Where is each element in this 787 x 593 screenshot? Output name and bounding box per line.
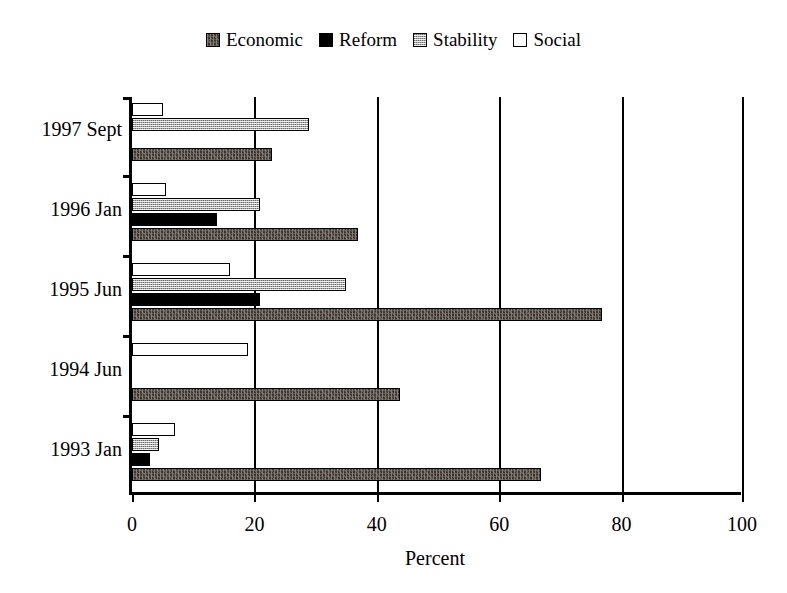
- x-axis-tick-60: [499, 492, 501, 502]
- x-tick-label-60: 60: [489, 514, 509, 534]
- x-axis-tick-0: [132, 492, 134, 502]
- y-axis-tick-4: [123, 415, 132, 418]
- bar-1996-jan-reform[interactable]: [132, 213, 217, 226]
- x-tick-label-80: 80: [612, 514, 632, 534]
- x-tick-label-40: 40: [367, 514, 387, 534]
- legend-swatch-social: [513, 33, 527, 47]
- bar-1993-jan-reform[interactable]: [132, 453, 150, 466]
- x-tick-label-100: 100: [727, 514, 757, 534]
- bar-1995-jun-stability[interactable]: [132, 278, 346, 291]
- y-axis-labels: 1997 Sept 1996 Jan 1995 Jun 1994 Jun 199…: [0, 97, 122, 495]
- gridline-100: [742, 97, 744, 495]
- y-tick-label-1997-sept: 1997 Sept: [2, 119, 122, 139]
- legend-label-reform: Reform: [339, 30, 397, 49]
- y-tick-label-1994-jun: 1994 Jun: [2, 359, 122, 379]
- y-tick-label-1995-jun: 1995 Jun: [2, 279, 122, 299]
- bar-1994-jun-social[interactable]: [132, 343, 248, 356]
- bar-chart: Economic Reform Stability Social 1997 Se…: [0, 0, 787, 593]
- y-axis-tick-top: [123, 97, 132, 100]
- y-axis-tick-1: [123, 175, 132, 178]
- legend-item-social: Social: [513, 30, 581, 49]
- x-tick-label-0: 0: [127, 514, 137, 534]
- bar-1997-sept-stability[interactable]: [132, 118, 309, 131]
- plot-area: 0 20 40 60 80 100: [129, 97, 741, 495]
- bar-1996-jan-stability[interactable]: [132, 198, 260, 211]
- x-axis-tick-80: [622, 492, 624, 502]
- bar-1993-jan-economic[interactable]: [132, 468, 541, 481]
- legend-item-stability: Stability: [413, 30, 497, 49]
- gridline-80: [622, 97, 624, 495]
- bar-1993-jan-stability[interactable]: [132, 438, 159, 451]
- legend-label-stability: Stability: [433, 30, 497, 49]
- bar-1996-jan-economic[interactable]: [132, 228, 358, 241]
- legend-swatch-economic: [206, 33, 220, 47]
- bar-1996-jan-social[interactable]: [132, 183, 166, 196]
- x-axis-tick-20: [254, 492, 256, 502]
- y-tick-label-1993-jan: 1993 Jan: [2, 439, 122, 459]
- legend-swatch-stability: [413, 33, 427, 47]
- x-axis-tick-40: [377, 492, 379, 502]
- legend-item-economic: Economic: [206, 30, 303, 49]
- chart-legend: Economic Reform Stability Social: [0, 30, 787, 49]
- y-axis-tick-2: [123, 255, 132, 258]
- bar-1997-sept-economic[interactable]: [132, 148, 272, 161]
- bar-1997-sept-social[interactable]: [132, 103, 163, 116]
- legend-label-social: Social: [533, 30, 581, 49]
- bar-1995-jun-social[interactable]: [132, 263, 230, 276]
- legend-label-economic: Economic: [226, 30, 303, 49]
- y-axis-tick-3: [123, 335, 132, 338]
- x-tick-label-20: 20: [244, 514, 264, 534]
- x-axis-title: Percent: [129, 548, 741, 568]
- bar-1993-jan-social[interactable]: [132, 423, 175, 436]
- gridline-60: [499, 97, 501, 495]
- bar-1994-jun-economic[interactable]: [132, 388, 400, 401]
- bar-1995-jun-reform[interactable]: [132, 293, 260, 306]
- legend-item-reform: Reform: [319, 30, 397, 49]
- bar-1995-jun-economic[interactable]: [132, 308, 602, 321]
- y-tick-label-1996-jan: 1996 Jan: [2, 199, 122, 219]
- legend-swatch-reform: [319, 33, 333, 47]
- x-axis-tick-100: [742, 492, 744, 502]
- gridline-40: [377, 97, 379, 495]
